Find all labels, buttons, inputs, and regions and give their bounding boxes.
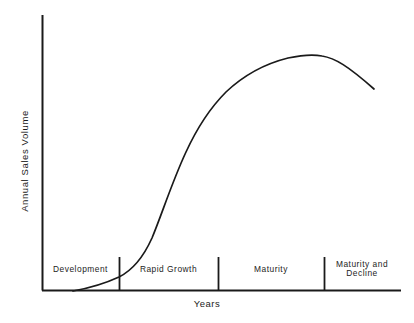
stage-label-maturity: Maturity	[218, 265, 324, 274]
stage-label-development: Development	[42, 265, 119, 274]
stage-label-maturity-and-decline: Maturity and Decline	[324, 260, 400, 279]
x-axis-label: Years	[0, 299, 414, 309]
y-axis-label: Annual Sales Volume	[14, 91, 32, 231]
stage-label-rapid-growth: Rapid Growth	[119, 265, 218, 274]
life-cycle-curve	[73, 55, 374, 291]
y-axis-label-text: Annual Sales Volume	[19, 110, 30, 212]
product-life-cycle-chart: Annual Sales Volume Years Development Ra…	[0, 0, 414, 323]
